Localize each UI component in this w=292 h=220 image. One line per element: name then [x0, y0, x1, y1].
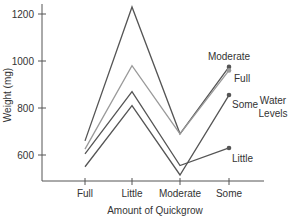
series-endpoint-marker — [227, 146, 232, 151]
series-labels: ModerateFullLittleSome — [208, 51, 259, 164]
line-chart: 60080010001200FullLittleModerateSome Mod… — [0, 0, 292, 220]
x-axis-label: Amount of Quickgrow — [107, 205, 203, 216]
x-tick-label: Full — [77, 188, 93, 199]
x-tick-label: Moderate — [159, 188, 202, 199]
series-label-little: Little — [232, 153, 254, 164]
y-tick-label: 1000 — [12, 56, 35, 67]
series-label-moderate: Moderate — [208, 51, 251, 62]
legend-title-line1: Water — [260, 95, 287, 106]
series-lines — [85, 7, 231, 175]
series-line-little — [85, 92, 229, 166]
x-tick-label: Some — [216, 188, 243, 199]
series-label-full: Full — [234, 73, 250, 84]
series-line-some — [85, 95, 229, 175]
legend-title-line2: Levels — [259, 108, 288, 119]
x-tick-label: Little — [121, 188, 143, 199]
series-label-some: Some — [232, 99, 259, 110]
y-tick-label: 1200 — [12, 9, 35, 20]
series-endpoint-marker — [227, 93, 232, 98]
y-tick-label: 800 — [17, 103, 34, 114]
series-endpoint-marker — [227, 68, 232, 73]
y-tick-label: 600 — [17, 150, 34, 161]
series-line-moderate — [85, 7, 229, 141]
y-axis-label: Weight (mg) — [2, 68, 13, 122]
